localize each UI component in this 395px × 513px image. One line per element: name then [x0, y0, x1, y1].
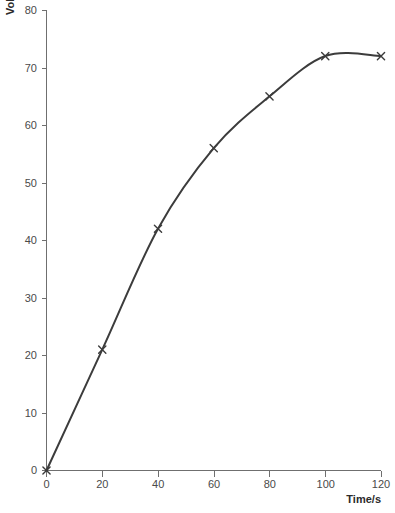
y-tick-label: 10 [25, 407, 37, 419]
y-axis-ticks: 80 70 60 50 40 30 20 10 0 [25, 4, 47, 476]
data-point-marker [266, 93, 273, 100]
data-point-markers [43, 52, 385, 474]
gas-volume-curve [47, 53, 382, 470]
x-tick-label: 100 [317, 478, 335, 490]
x-axis-title: Time/s [346, 493, 381, 505]
y-tick-label: 70 [25, 62, 37, 74]
x-tick-label: 80 [264, 478, 276, 490]
data-point-marker [154, 225, 161, 232]
x-axis-ticks: 0 20 40 60 80 100 120 [43, 471, 390, 491]
y-tick-label: 80 [25, 4, 37, 16]
data-point-marker [99, 346, 106, 353]
y-tick-label: 50 [25, 177, 37, 189]
gas-volume-chart-figure: 80 70 60 50 40 30 20 10 0 0 20 40 60 80 … [0, 0, 395, 513]
chart-plot-area: 80 70 60 50 40 30 20 10 0 0 20 40 60 80 … [0, 0, 395, 513]
x-tick-label: 20 [96, 478, 108, 490]
y-axis-title: Volume of gas/cm³ [4, 0, 16, 15]
x-tick-label: 120 [372, 478, 390, 490]
x-tick-label: 40 [152, 478, 164, 490]
y-tick-label: 20 [25, 349, 37, 361]
data-point-marker [210, 145, 217, 152]
y-tick-label: 0 [31, 464, 37, 476]
x-tick-label: 60 [208, 478, 220, 490]
y-tick-label: 60 [25, 119, 37, 131]
y-tick-label: 40 [25, 234, 37, 246]
y-tick-label: 30 [25, 292, 37, 304]
x-tick-label: 0 [43, 478, 49, 490]
